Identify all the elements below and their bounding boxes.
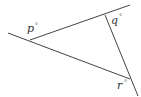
angle-label-q: q bbox=[111, 14, 118, 27]
degree-p: ° bbox=[35, 21, 38, 28]
lower-line bbox=[8, 33, 130, 79]
degree-r: ° bbox=[124, 78, 127, 85]
angle-label-p: p bbox=[27, 22, 34, 35]
triangle-diagram: p ° q ° r ° bbox=[0, 0, 141, 97]
angle-label-r: r bbox=[117, 79, 123, 92]
degree-q: ° bbox=[119, 12, 122, 19]
diagram-canvas: p ° q ° r ° bbox=[0, 0, 141, 97]
